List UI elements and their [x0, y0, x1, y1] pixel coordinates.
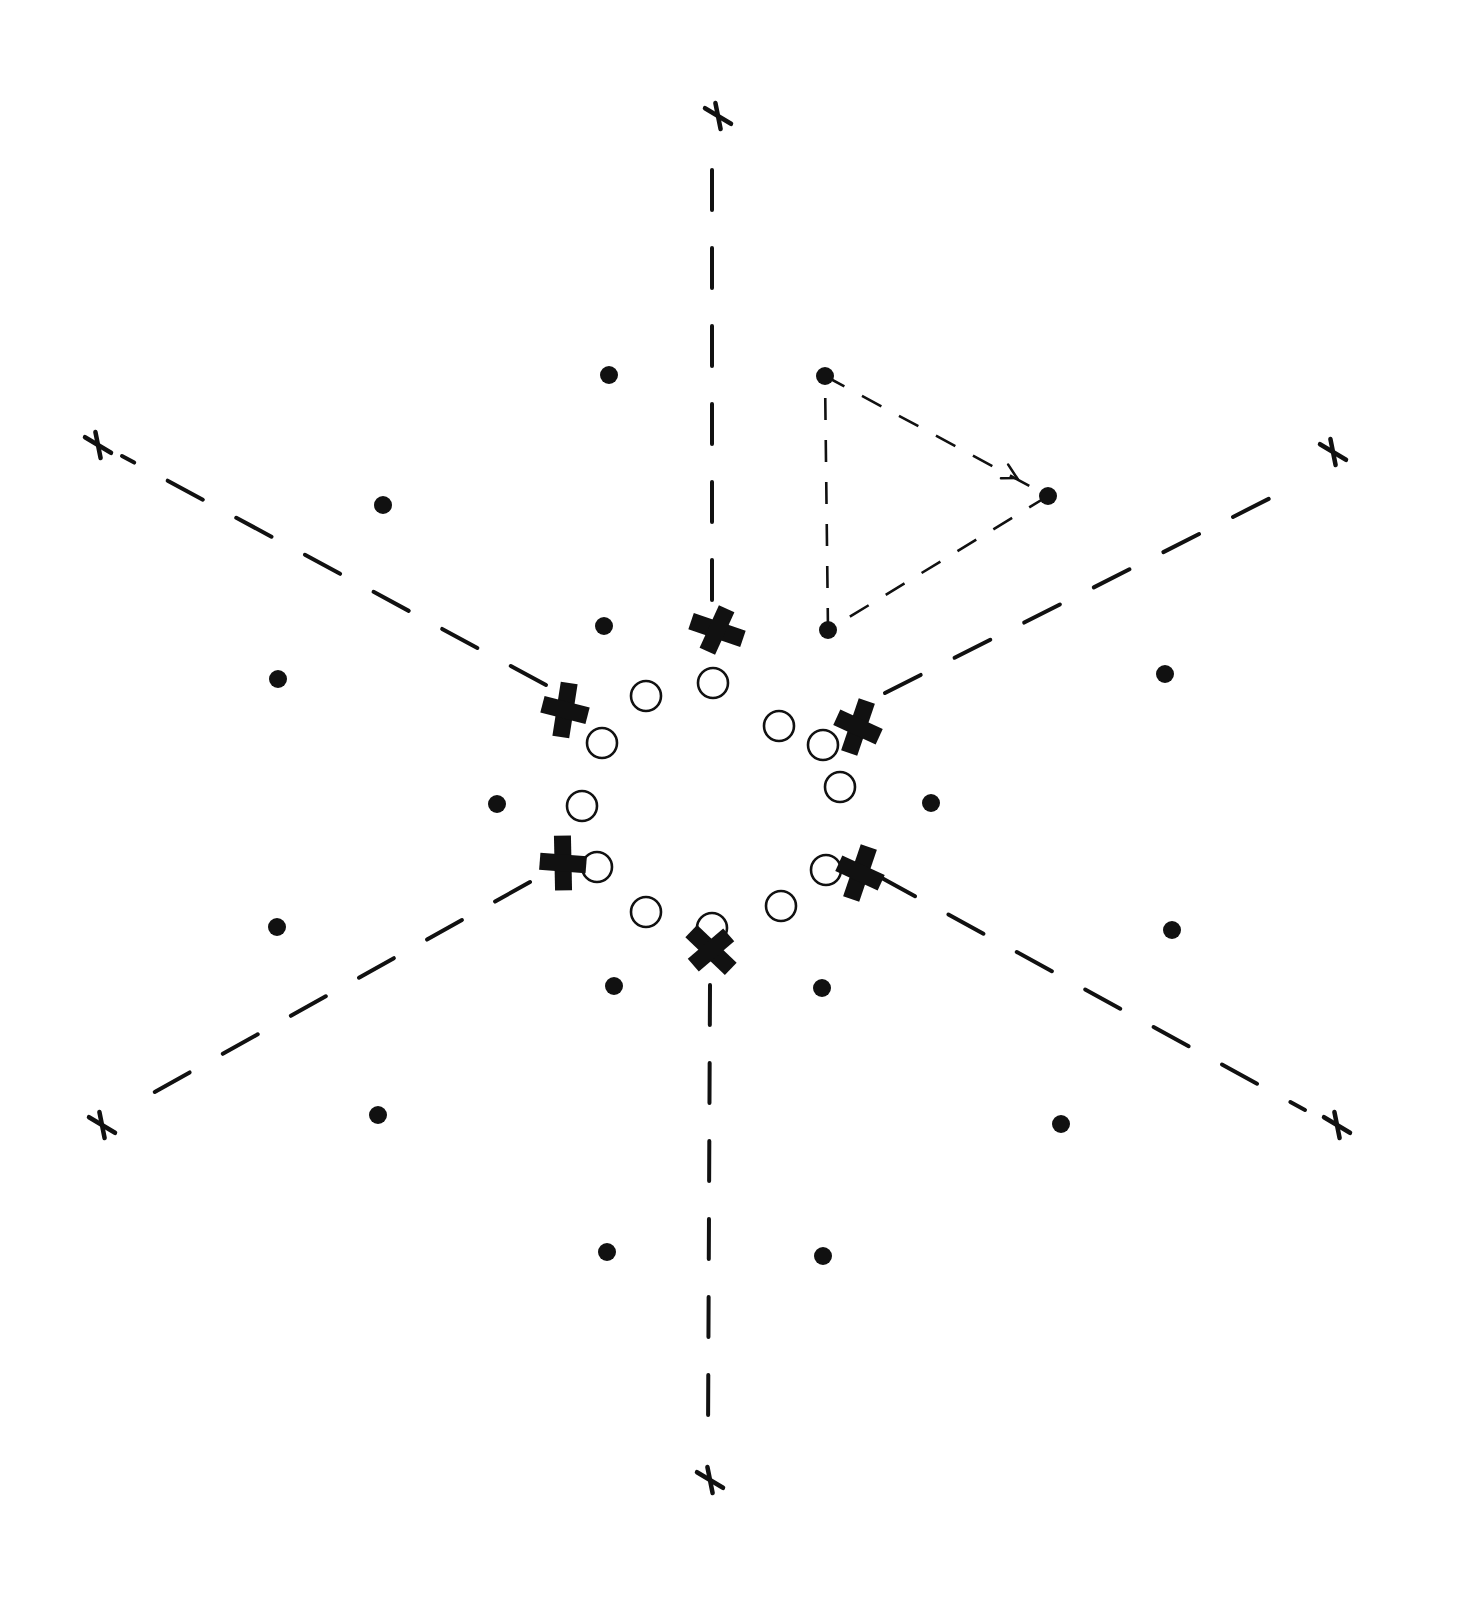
axis-end-x-icon	[1320, 439, 1346, 465]
axis-top	[705, 103, 731, 600]
axis-dash	[427, 920, 462, 940]
triangle-edge	[825, 376, 828, 630]
axis-dash	[1017, 952, 1052, 971]
axis-dash	[359, 958, 394, 978]
open-circle	[698, 668, 728, 698]
axis-dash	[374, 592, 409, 611]
axis-dash	[948, 914, 983, 933]
dashed-triangle	[816, 367, 1057, 639]
axis-dash	[1163, 534, 1199, 552]
axis-dash	[495, 882, 530, 902]
solid-dot	[595, 617, 613, 635]
solid-dot	[369, 1106, 387, 1124]
solid-dot	[605, 977, 623, 995]
solid-dot	[268, 918, 286, 936]
bold-x-upper-right-icon	[835, 700, 881, 754]
triangle-vertex-dot	[1039, 487, 1057, 505]
open-circle	[587, 728, 617, 758]
open-circle-ring	[567, 668, 855, 943]
axis-dash	[955, 640, 991, 658]
open-circle	[631, 897, 661, 927]
axis-end-x-icon	[85, 432, 111, 458]
axis-dash	[885, 675, 921, 693]
bold-x-lower-left-icon	[534, 833, 591, 894]
open-circle	[631, 681, 661, 711]
solid-dot	[1052, 1115, 1070, 1133]
axis-end-x-icon	[697, 1467, 723, 1493]
open-circle	[567, 791, 597, 821]
axis-dash	[880, 877, 915, 896]
axis-dash	[1085, 989, 1120, 1008]
axis-dash	[168, 481, 203, 500]
axis-dash	[511, 666, 546, 685]
axis-upper-left	[85, 432, 546, 685]
bold-x-lower-right-icon	[837, 846, 883, 900]
solid-dot	[600, 366, 618, 384]
axis-dash	[1094, 569, 1130, 587]
axis-dash	[155, 1072, 190, 1092]
open-circle	[766, 891, 796, 921]
axis-end-x-icon	[705, 103, 731, 129]
open-circle	[764, 711, 794, 741]
axis-upper-right	[885, 439, 1346, 693]
axis-end-x-icon	[1324, 1112, 1350, 1138]
bold-x-top-icon	[690, 607, 744, 653]
axis-dash	[122, 456, 134, 463]
axis-dash	[442, 629, 477, 648]
solid-dot	[922, 794, 940, 812]
hexagonal-symmetry-diagram	[0, 0, 1460, 1603]
solid-dot	[1156, 665, 1174, 683]
solid-dot	[374, 496, 392, 514]
arrow-head-icon	[1001, 465, 1017, 479]
axis-lower-right	[880, 877, 1350, 1138]
solid-dot	[269, 670, 287, 688]
triangle-edge	[828, 496, 1048, 630]
open-circle	[825, 772, 855, 802]
solid-dot	[488, 795, 506, 813]
solid-dot	[813, 979, 831, 997]
solid-dot	[814, 1247, 832, 1265]
axis-end-x-icon	[89, 1112, 115, 1138]
axis-dash	[1024, 605, 1060, 623]
axis-lower-left	[89, 882, 530, 1138]
solid-dot	[1163, 921, 1181, 939]
axis-dash	[1233, 499, 1269, 517]
triangle-vertex-dot	[816, 367, 834, 385]
axis-dash	[1154, 1027, 1189, 1046]
solid-dot	[598, 1243, 616, 1261]
axis-dash	[291, 996, 326, 1016]
axis-dash	[223, 1034, 258, 1054]
dashed-axes	[85, 103, 1350, 1493]
axis-dash	[236, 518, 271, 537]
open-circle	[808, 730, 838, 760]
bold-x-upper-left-icon	[539, 681, 592, 739]
triangle-vertex-dot	[819, 621, 837, 639]
axis-bottom	[697, 985, 723, 1493]
axis-dash	[1222, 1064, 1257, 1083]
axis-dash	[305, 555, 340, 574]
axis-dash	[1290, 1102, 1305, 1110]
